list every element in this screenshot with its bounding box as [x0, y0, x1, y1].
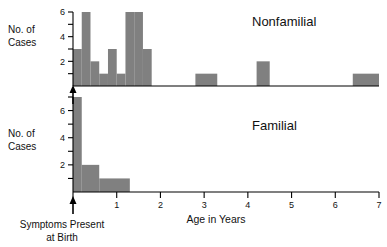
bar-nonfamilial — [143, 49, 152, 86]
bar-nonfamilial — [125, 12, 134, 86]
bar-nonfamilial — [73, 49, 82, 86]
panel-label-familial: Familial — [252, 118, 297, 133]
y-axis-title-familial: Cases — [8, 141, 36, 152]
histogram-figure: 246No. ofCasesNonfamilial246No. ofCasesF… — [0, 0, 387, 247]
y-tick-label-familial: 2 — [60, 160, 65, 170]
bar-nonfamilial — [82, 12, 91, 86]
x-tick-label: 7 — [376, 200, 381, 210]
bar-nonfamilial — [99, 74, 108, 86]
x-axis-title: Age in Years — [187, 213, 246, 225]
figure-canvas: 246No. ofCasesNonfamilial246No. ofCasesF… — [0, 0, 387, 247]
x-tick-label: 1 — [114, 200, 119, 210]
x-tick-label: 4 — [245, 200, 250, 210]
bar-nonfamilial — [134, 12, 143, 86]
annotation-birth-line2: at Birth — [46, 232, 78, 243]
bar-familial — [99, 178, 130, 192]
arrow-birth-lower-head — [70, 196, 77, 204]
y-tick-label-familial: 6 — [60, 106, 65, 116]
bar-nonfamilial — [353, 74, 379, 86]
y-axis-title-familial: No. of — [8, 128, 35, 139]
x-tick-label: 5 — [289, 200, 294, 210]
bar-nonfamilial — [90, 61, 99, 86]
y-tick-label-nonfamilial: 2 — [60, 57, 65, 67]
annotation-birth-line1: Symptoms Present — [20, 219, 105, 230]
x-tick-label: 2 — [158, 200, 163, 210]
y-axis-title-nonfamilial: No. of — [8, 24, 35, 35]
y-tick-label-nonfamilial: 6 — [60, 7, 65, 17]
bar-nonfamilial — [108, 49, 117, 86]
bar-familial — [82, 165, 99, 192]
bar-nonfamilial — [117, 74, 126, 86]
y-axis-title-nonfamilial: Cases — [8, 37, 36, 48]
panel-label-nonfamilial: Nonfamilial — [252, 14, 316, 29]
y-tick-label-familial: 4 — [60, 133, 65, 143]
bar-familial — [73, 97, 82, 192]
bar-nonfamilial — [195, 74, 217, 86]
x-tick-label: 3 — [202, 200, 207, 210]
x-tick-label: 6 — [333, 200, 338, 210]
y-tick-label-nonfamilial: 4 — [60, 32, 65, 42]
bar-nonfamilial — [257, 61, 270, 86]
